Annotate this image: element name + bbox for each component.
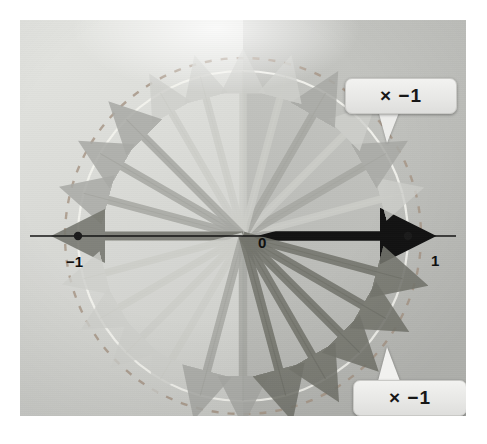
- callout-tail-bottom: [378, 347, 400, 381]
- marker-point-one: [404, 232, 412, 240]
- callout-multiply-by-negative-one-top: × −1: [345, 78, 457, 114]
- figure-stage: −1 0 1 × −1 × −1: [0, 0, 487, 444]
- figure-plate: −1 0 1 × −1 × −1: [20, 20, 466, 416]
- axis-label-one: 1: [431, 252, 439, 269]
- callout-tail-top: [378, 110, 400, 143]
- axis-label-negative-one: −1: [66, 253, 83, 270]
- marker-point-neg1: [74, 232, 82, 240]
- callout-multiply-by-negative-one-bottom: × −1: [353, 380, 466, 416]
- axis-label-zero: 0: [258, 234, 266, 251]
